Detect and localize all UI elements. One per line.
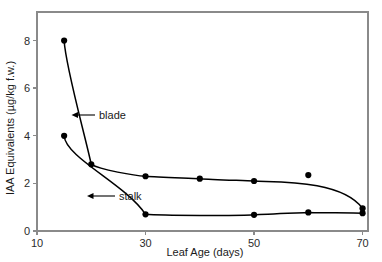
x-tick-label: 10 (31, 237, 43, 249)
y-axis-title: IAA Equivalents (µg/kg f.w.) (4, 61, 16, 195)
y-tick-label: 0 (24, 225, 30, 237)
curve-stalk (64, 136, 362, 216)
data-point (142, 211, 148, 217)
data-point (197, 176, 203, 182)
x-tick-label: 50 (248, 237, 260, 249)
annotation-label-blade: blade (99, 109, 126, 121)
y-tick-label: 4 (24, 130, 30, 142)
annotation-label-stalk: stalk (119, 190, 142, 202)
data-point (305, 172, 311, 178)
arrow-head-icon (72, 112, 79, 118)
x-tick-label: 70 (356, 237, 368, 249)
x-tick-label: 30 (139, 237, 151, 249)
series-blade (61, 37, 366, 211)
arrow-head-icon (87, 193, 94, 199)
y-tick-label: 8 (24, 35, 30, 47)
curve-blade (64, 41, 362, 209)
annotation-layer: bladestalk (72, 109, 143, 202)
data-series-layer (61, 37, 366, 217)
axis-frame (37, 12, 368, 231)
data-point (251, 178, 257, 184)
chart-figure: 02468 10305070 Leaf Age (days) IAA Equiv… (0, 0, 382, 262)
data-point (61, 133, 67, 139)
plot-border (37, 12, 368, 231)
data-point (61, 37, 67, 43)
series-stalk (61, 133, 366, 218)
y-tick-label: 2 (24, 177, 30, 189)
y-axis-ticks: 02468 (24, 35, 37, 237)
chart-canvas: 02468 10305070 Leaf Age (days) IAA Equiv… (0, 0, 382, 262)
x-axis-title: Leaf Age (days) (166, 246, 243, 258)
data-point (305, 209, 311, 215)
data-point (142, 173, 148, 179)
data-point (359, 210, 365, 216)
y-tick-label: 6 (24, 82, 30, 94)
data-point (251, 212, 257, 218)
annotation-stalk: stalk (87, 190, 142, 202)
